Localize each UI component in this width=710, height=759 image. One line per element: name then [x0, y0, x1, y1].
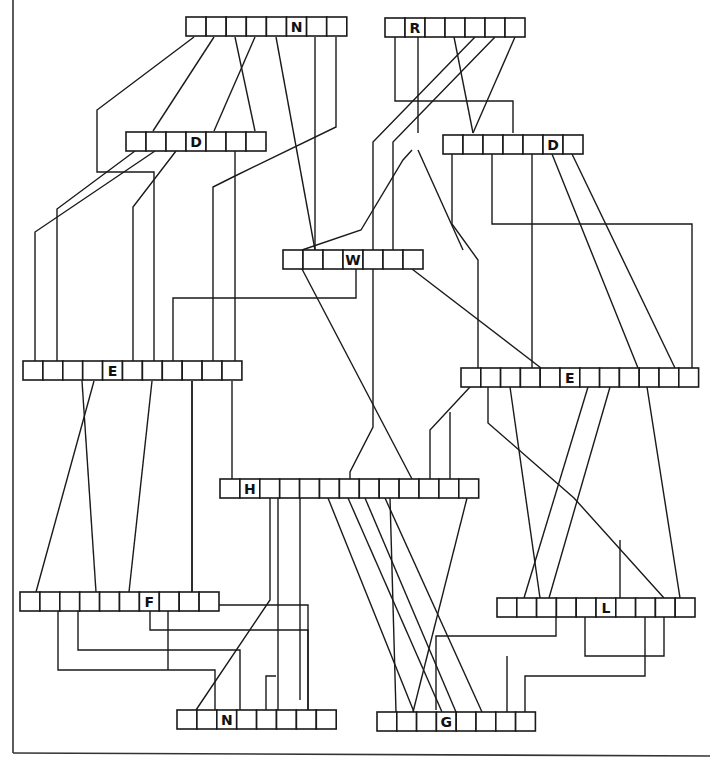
array-cell [636, 598, 656, 617]
array-cell [226, 132, 246, 151]
connector-line [549, 387, 610, 598]
array-cell [120, 592, 140, 611]
connector-line [413, 498, 467, 712]
array-cell [655, 598, 675, 617]
array-cell [202, 361, 222, 380]
array-label: N [221, 712, 233, 728]
connector-line [452, 154, 478, 368]
array-cell [197, 710, 217, 729]
connector-line [97, 37, 194, 361]
array-cell [425, 18, 445, 37]
cell-array-e-right: E [461, 368, 699, 387]
array-cell [20, 592, 40, 611]
array-cell [403, 250, 423, 269]
array-cell [40, 592, 60, 611]
array-cell [399, 479, 419, 498]
array-label: E [565, 370, 575, 386]
connector-line [302, 269, 412, 479]
array-cell [483, 135, 503, 154]
array-cell [563, 135, 583, 154]
graph-diagram: NRDDWEEHFLNG [0, 0, 710, 759]
array-cell [260, 479, 280, 498]
connector-line [82, 381, 96, 592]
connector-line [214, 37, 255, 131]
array-cell [481, 368, 501, 387]
array-cell [580, 368, 600, 387]
array-cell [126, 132, 146, 151]
connector-line [395, 37, 513, 133]
array-cell [220, 479, 240, 498]
array-cell [556, 598, 576, 617]
array-cell [377, 712, 397, 731]
array-cell [363, 250, 383, 269]
cell-array-h: H [220, 479, 479, 498]
array-cell [246, 132, 266, 151]
connector-line [129, 381, 152, 592]
array-cell [419, 479, 439, 498]
cell-array-e-left: E [23, 361, 242, 380]
array-cell [383, 250, 403, 269]
array-cell [320, 479, 340, 498]
array-label: D [190, 134, 202, 150]
array-cell [463, 135, 483, 154]
array-cell [206, 17, 226, 36]
array-cell [199, 592, 219, 611]
array-cell [523, 135, 543, 154]
array-cell [385, 18, 405, 37]
connector-line [302, 150, 412, 250]
connector-line [213, 37, 336, 361]
array-cell [80, 592, 100, 611]
connector-line [235, 37, 255, 131]
array-cell [461, 368, 481, 387]
array-cell [323, 250, 343, 269]
array-cell [60, 592, 80, 611]
array-cell [300, 479, 320, 498]
array-cell [142, 361, 162, 380]
array-cell [496, 712, 516, 731]
array-cell [316, 710, 336, 729]
connector-line [35, 151, 155, 361]
array-cell [639, 368, 659, 387]
cell-array-r-top: R [385, 18, 525, 37]
array-cell [659, 368, 679, 387]
array-label: E [108, 363, 118, 379]
array-cell [63, 361, 83, 380]
connector-line [418, 150, 463, 250]
array-cell [277, 710, 297, 729]
array-cell [222, 361, 242, 380]
array-cell [417, 712, 437, 731]
array-cell [537, 598, 557, 617]
cell-array-d-right: D [443, 135, 583, 154]
array-label: D [547, 137, 559, 153]
array-cell [476, 712, 496, 731]
connector-line [473, 37, 515, 133]
array-cell [159, 592, 179, 611]
array-label: N [291, 19, 303, 35]
array-cell [397, 712, 417, 731]
array-cell [162, 361, 182, 380]
array-cell [616, 598, 636, 617]
array-cell [501, 368, 521, 387]
connector-line [412, 269, 541, 368]
array-cell [123, 361, 143, 380]
array-label: F [145, 594, 155, 610]
connector-line [552, 154, 638, 368]
array-cell [327, 17, 347, 36]
array-cell [43, 361, 63, 380]
connector-line [153, 37, 214, 131]
array-cell [186, 17, 206, 36]
array-cell [619, 368, 639, 387]
array-cell [465, 18, 485, 37]
array-cell [503, 135, 523, 154]
connector-line [266, 676, 276, 710]
cell-array-d-left: D [126, 132, 266, 151]
array-cell [307, 17, 327, 36]
array-cell [166, 132, 186, 151]
connector-line [436, 617, 556, 710]
array-cell [459, 479, 479, 498]
cell-array-w: W [283, 250, 423, 269]
connector-line [57, 151, 135, 361]
array-cell [520, 368, 540, 387]
connector-line [572, 154, 675, 368]
array-cell [505, 18, 525, 37]
